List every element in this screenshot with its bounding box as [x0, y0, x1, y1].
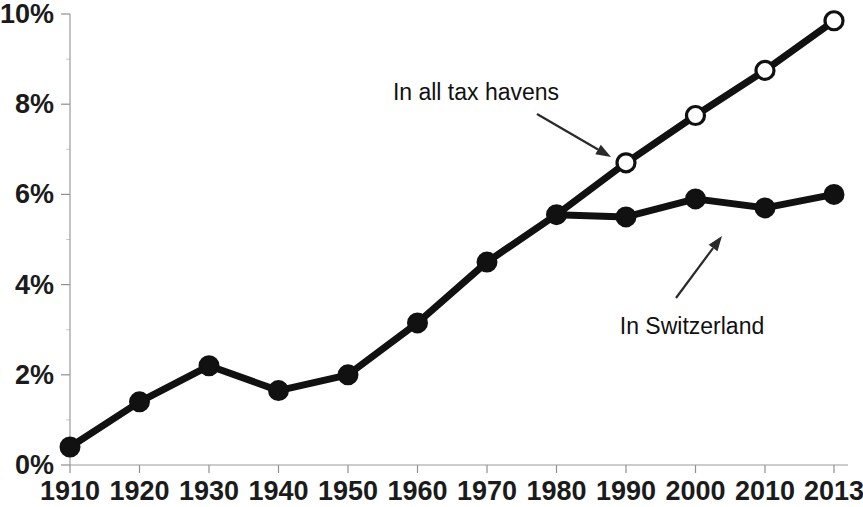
x-axis-tick-label: 2013 [804, 476, 863, 506]
y-axis-tick-labels: 0%2%4%6%8%10% [0, 0, 54, 480]
data-point-switzerland [478, 253, 497, 272]
data-point-switzerland [686, 189, 705, 208]
annotation-label-tax-havens: In all tax havens [393, 79, 559, 105]
chart-container: 0%2%4%6%8%10% 19101920193019401950196019… [0, 0, 863, 507]
x-axis-tick-label: 1950 [318, 476, 378, 506]
data-point-switzerland [756, 198, 775, 217]
data-point-switzerland [339, 365, 358, 384]
y-axis-tick-label: 6% [15, 179, 54, 209]
x-axis-minor-ticks [66, 59, 834, 473]
x-axis-tick-label: 1990 [596, 476, 656, 506]
annotation-arrow-tax-havens [537, 114, 598, 149]
x-axis-tick-label: 2010 [735, 476, 795, 506]
x-axis-tick-label: 1930 [179, 476, 239, 506]
x-axis-tick-label: 1970 [457, 476, 517, 506]
y-axis-tick-label: 4% [15, 270, 54, 300]
y-axis-tick-label: 2% [15, 360, 54, 390]
y-axis-tick-label: 10% [0, 0, 54, 29]
x-axis-tick-labels: 1910192019301940195019601970198019902000… [40, 476, 863, 506]
data-point-switzerland [269, 381, 288, 400]
data-point-switzerland [617, 207, 636, 226]
data-point-all-tax-havens [825, 12, 843, 30]
annotation-label-switzerland: In Switzerland [620, 313, 764, 339]
data-point-switzerland [825, 185, 844, 204]
data-point-switzerland [61, 437, 80, 456]
x-axis-tick-label: 2000 [665, 476, 725, 506]
line-chart: 0%2%4%6%8%10% 19101920193019401950196019… [0, 0, 863, 507]
annotation-arrowhead-tax-havens [595, 145, 611, 157]
data-point-all-tax-havens [617, 154, 635, 172]
annotation-arrowhead-switzerland [709, 236, 722, 251]
data-point-switzerland [408, 313, 427, 332]
y-axis-tick-label: 8% [15, 89, 54, 119]
data-point-switzerland [200, 356, 219, 375]
x-axis-tick-label: 1910 [40, 476, 100, 506]
x-axis-tick-label: 1940 [248, 476, 308, 506]
x-axis-tick-label: 1960 [387, 476, 447, 506]
data-point-switzerland [130, 392, 149, 411]
data-point-all-tax-havens [756, 61, 774, 79]
annotation-arrow-switzerland [676, 248, 713, 298]
x-axis-tick-label: 1920 [109, 476, 169, 506]
data-point-all-tax-havens [687, 106, 705, 124]
data-point-switzerland [547, 205, 566, 224]
x-axis-tick-label: 1980 [526, 476, 586, 506]
